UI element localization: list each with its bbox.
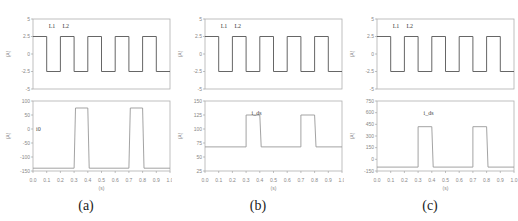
svg-text:1.0: 1.0	[511, 177, 518, 183]
svg-text:25: 25	[196, 168, 202, 174]
svg-text:100: 100	[194, 126, 203, 132]
caption-b: (b)	[172, 198, 344, 214]
svg-text:-2.5: -2.5	[365, 68, 374, 74]
svg-text:-2.5: -2.5	[193, 68, 202, 74]
svg-text:450: 450	[366, 121, 375, 127]
svg-text:-5: -5	[26, 86, 31, 92]
panel-a: 52.50-2.5-5(A)L1L2100500-50-100-150(A)0.…	[0, 0, 172, 221]
svg-text:0.6: 0.6	[456, 177, 463, 183]
svg-text:0.5: 0.5	[270, 177, 277, 183]
svg-text:L2: L2	[406, 23, 413, 29]
svg-text:0.5: 0.5	[98, 177, 105, 183]
svg-text:-150: -150	[20, 168, 30, 174]
svg-text:-2.5: -2.5	[21, 68, 30, 74]
svg-text:0.7: 0.7	[125, 177, 132, 183]
svg-text:750: 750	[366, 98, 375, 104]
svg-text:5: 5	[199, 16, 202, 22]
svg-text:(s): (s)	[271, 185, 277, 191]
svg-text:-5: -5	[198, 86, 203, 92]
svg-text:2.5: 2.5	[23, 33, 30, 39]
svg-text:-100: -100	[20, 154, 30, 160]
caption-c: (c)	[344, 198, 516, 214]
svg-text:0.4: 0.4	[256, 177, 263, 183]
svg-text:0.7: 0.7	[469, 177, 476, 183]
svg-text:150: 150	[194, 98, 203, 104]
svg-text:100: 100	[22, 98, 31, 104]
svg-text:(A): (A)	[5, 50, 11, 57]
svg-text:0.3: 0.3	[243, 177, 250, 183]
svg-text:(A): (A)	[349, 132, 355, 139]
svg-text:0.9: 0.9	[153, 177, 160, 183]
svg-text:i_ds: i_ds	[252, 110, 263, 116]
svg-text:(A): (A)	[5, 132, 11, 139]
svg-text:L2: L2	[234, 23, 241, 29]
chart-panel-a: 52.50-2.5-5(A)L1L2100500-50-100-150(A)0.…	[0, 0, 172, 221]
chart-panel-b: 52.50-2.5-5(A)L1L2150125100755025(A)0.00…	[172, 0, 344, 221]
svg-text:0.3: 0.3	[415, 177, 422, 183]
svg-text:0: 0	[371, 51, 374, 57]
svg-text:0.1: 0.1	[215, 177, 222, 183]
svg-text:-5: -5	[370, 86, 375, 92]
svg-text:0.0: 0.0	[30, 177, 37, 183]
svg-text:2.5: 2.5	[195, 33, 202, 39]
svg-text:0.2: 0.2	[229, 177, 236, 183]
chart-panel-c: 52.50-2.5-5(A)L1L27506004503001500-150(A…	[344, 0, 518, 221]
subplot-top: 52.50-2.5-5(A)L1L2	[177, 16, 342, 92]
svg-text:50: 50	[24, 112, 30, 118]
svg-text:0.8: 0.8	[311, 177, 318, 183]
svg-text:(A): (A)	[349, 50, 355, 57]
panel-b: 52.50-2.5-5(A)L1L2150125100755025(A)0.00…	[172, 0, 344, 221]
svg-text:(s): (s)	[443, 185, 449, 191]
svg-text:0.0: 0.0	[374, 177, 381, 183]
svg-text:-150: -150	[364, 168, 374, 174]
svg-text:L1: L1	[221, 23, 228, 29]
svg-text:5: 5	[27, 16, 30, 22]
svg-text:0.1: 0.1	[43, 177, 50, 183]
svg-text:0.2: 0.2	[57, 177, 64, 183]
svg-text:300: 300	[366, 133, 375, 139]
svg-text:L1: L1	[49, 23, 56, 29]
svg-text:0.4: 0.4	[428, 177, 435, 183]
subplot-bottom: 150125100755025(A)0.00.10.20.30.40.50.60…	[177, 98, 344, 191]
svg-text:0.1: 0.1	[387, 177, 394, 183]
svg-text:i_ds: i_ds	[424, 110, 435, 116]
svg-text:(A): (A)	[177, 50, 183, 57]
svg-text:(s): (s)	[99, 185, 105, 191]
svg-text:0.0: 0.0	[202, 177, 209, 183]
svg-text:0.4: 0.4	[84, 177, 91, 183]
subplot-top: 52.50-2.5-5(A)L1L2	[349, 16, 514, 92]
svg-text:0: 0	[371, 156, 374, 162]
svg-text:0: 0	[27, 51, 30, 57]
svg-text:0.8: 0.8	[483, 177, 490, 183]
svg-text:0.3: 0.3	[71, 177, 78, 183]
svg-text:L2: L2	[62, 23, 69, 29]
svg-text:0.6: 0.6	[284, 177, 291, 183]
caption-a: (a)	[0, 198, 172, 214]
svg-text:(A): (A)	[177, 132, 183, 139]
svg-text:0.8: 0.8	[139, 177, 146, 183]
svg-text:L1: L1	[393, 23, 400, 29]
svg-text:0: 0	[27, 126, 30, 132]
svg-text:150: 150	[366, 144, 375, 150]
svg-text:50: 50	[196, 154, 202, 160]
svg-text:0.2: 0.2	[401, 177, 408, 183]
svg-text:600: 600	[366, 109, 375, 115]
svg-text:0.6: 0.6	[112, 177, 119, 183]
svg-text:75: 75	[196, 140, 202, 146]
svg-text:0.5: 0.5	[442, 177, 449, 183]
svg-text:0: 0	[199, 51, 202, 57]
panel-c: 52.50-2.5-5(A)L1L27506004503001500-150(A…	[344, 0, 516, 221]
subplot-bottom: 100500-50-100-150(A)0.00.10.20.30.40.50.…	[5, 98, 172, 191]
svg-text:i0: i0	[36, 126, 41, 132]
subplot-bottom: 7506004503001500-150(A)0.00.10.20.30.40.…	[349, 98, 518, 191]
svg-text:0.9: 0.9	[497, 177, 504, 183]
svg-text:0.9: 0.9	[325, 177, 332, 183]
svg-text:-50: -50	[23, 140, 30, 146]
svg-text:0.7: 0.7	[297, 177, 304, 183]
svg-text:125: 125	[194, 112, 203, 118]
svg-text:2.5: 2.5	[367, 33, 374, 39]
subplot-top: 52.50-2.5-5(A)L1L2	[5, 16, 170, 92]
svg-text:5: 5	[371, 16, 374, 22]
